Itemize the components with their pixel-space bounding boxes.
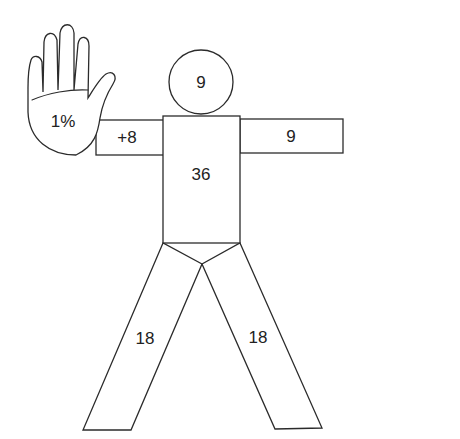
left-arm-label: +8	[117, 128, 136, 147]
right-leg-label: 18	[249, 328, 268, 347]
left-leg-label: 18	[136, 329, 155, 348]
torso-label: 36	[192, 165, 211, 184]
right-arm-label: 9	[286, 127, 295, 146]
palm-label: 1%	[51, 112, 76, 131]
head-label: 9	[196, 73, 205, 92]
body-surface-diagram: 9 36 +8 9 1% 18 18	[0, 0, 460, 439]
